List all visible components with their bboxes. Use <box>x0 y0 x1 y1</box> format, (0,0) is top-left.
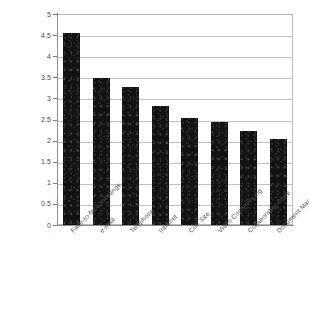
bar <box>152 106 169 225</box>
y-axis-tick-label: 4.5 <box>5 32 51 39</box>
y-axis-tick-label: 1.5 <box>5 158 51 165</box>
y-axis-tick-label: 2 <box>5 137 51 144</box>
bar <box>181 118 198 225</box>
y-axis-tick-label: 5 <box>5 11 51 18</box>
y-axis-tick-mark <box>53 225 57 226</box>
bar <box>63 33 80 225</box>
y-axis-tick-label: 2.5 <box>5 116 51 123</box>
y-axis-tick-label: 3.5 <box>5 74 51 81</box>
y-axis-tick-label: 3 <box>5 95 51 102</box>
y-axis-tick-label: 0.5 <box>5 200 51 207</box>
bar <box>211 122 228 225</box>
y-axis-tick-label: 1 <box>5 179 51 186</box>
bar <box>122 87 139 225</box>
bar-chart: 00.511.522.533.544.55 Face-to-face meeti… <box>0 0 309 318</box>
y-axis-tick-label: 0 <box>5 222 51 229</box>
y-axis-tick-label: 4 <box>5 53 51 60</box>
